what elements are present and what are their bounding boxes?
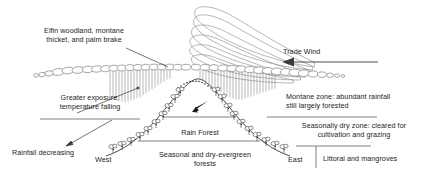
label-elfin-woodland: Elfin woodland, montane thicket, and pal… bbox=[28, 26, 140, 44]
label-greater-exposure: Greater exposure, temperature falling bbox=[34, 93, 146, 111]
label-seasonal-dry-evergreen: Seasonal and dry-evergreen forests bbox=[140, 150, 270, 168]
label-littoral-mangroves: Littoral and mangroves bbox=[323, 154, 423, 163]
mountain-profile-icon bbox=[106, 79, 290, 156]
leader-line-arrow-icon bbox=[66, 120, 112, 146]
label-trade-wind: Trade Wind bbox=[283, 47, 363, 56]
label-rain-forest: Rain Forest bbox=[166, 128, 234, 137]
down-left-arrow-icon bbox=[192, 101, 208, 113]
label-east: East bbox=[288, 155, 318, 164]
label-west: West bbox=[95, 155, 129, 164]
label-montane-zone: Montane zone: abundant rainfall still la… bbox=[286, 92, 422, 110]
diagram-canvas: Elfin woodland, montane thicket, and pal… bbox=[0, 0, 427, 181]
label-seasonally-dry-zone: Seasonally dry zone: cleared for cultiva… bbox=[290, 121, 418, 139]
